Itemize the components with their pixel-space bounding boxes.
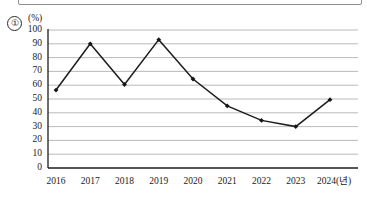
x-axis-tick-label: 2019	[149, 176, 168, 186]
chart-plot-area	[0, 0, 367, 200]
x-axis-tick-label: 2020	[184, 176, 203, 186]
y-axis-tick-label: 70	[18, 66, 42, 76]
x-axis-tick-label: 2017	[81, 176, 100, 186]
y-axis-tick-label: 0	[18, 163, 42, 173]
data-point-marker	[259, 118, 264, 123]
y-axis-tick-label: 80	[18, 53, 42, 63]
x-axis-tick-label: 2016	[47, 176, 66, 186]
y-axis-tick-label: 100	[18, 25, 42, 35]
y-axis-tick-label: 20	[18, 135, 42, 145]
y-axis-tick-label: 90	[18, 39, 42, 49]
x-axis-tick-label: 2018	[115, 176, 134, 186]
x-axis-tick-label: 2022	[252, 176, 271, 186]
data-series-line	[56, 40, 330, 127]
y-axis-tick-label: 40	[18, 108, 42, 118]
y-axis-tick-label: 50	[18, 94, 42, 104]
x-axis-tick-label: 2021	[218, 176, 237, 186]
line-chart-figure: ① (%) 0102030405060708090100 20162017201…	[0, 0, 367, 200]
y-axis-tick-label: 60	[18, 80, 42, 90]
y-axis-tick-label: 10	[18, 149, 42, 159]
x-axis-tick-label: 2023	[286, 176, 305, 186]
y-axis-tick-label: 30	[18, 122, 42, 132]
x-axis-tick-label: 2024(년)	[317, 176, 351, 186]
